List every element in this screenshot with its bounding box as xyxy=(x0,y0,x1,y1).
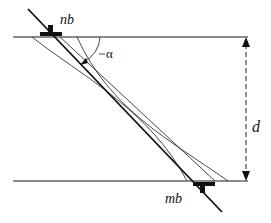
angle-arc xyxy=(83,37,100,62)
label-nb: nb xyxy=(60,12,74,27)
curved-line-right xyxy=(77,37,228,181)
label-alpha: α xyxy=(106,46,113,61)
dislocation-diagram: nb mb α d xyxy=(0,0,271,223)
parallel-line xyxy=(60,37,215,181)
top-dislocation-symbol-icon xyxy=(40,25,62,36)
label-d: d xyxy=(252,118,261,135)
arrow-up-icon xyxy=(242,37,250,47)
inclined-dislocation-line xyxy=(28,9,222,212)
label-mb: mb xyxy=(165,191,182,206)
arrow-down-icon xyxy=(242,171,250,181)
bottom-dislocation-symbol-icon xyxy=(193,182,215,193)
